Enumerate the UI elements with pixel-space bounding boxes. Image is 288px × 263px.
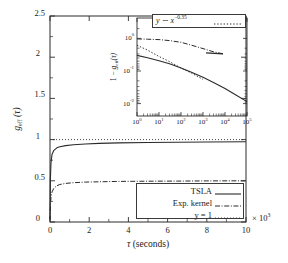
inset-legend-label-y: y — [156, 16, 160, 25]
inset-legend-sample-powerlaw — [214, 21, 242, 22]
inset-ytick-10em1-exp: -1 — [130, 65, 134, 70]
inset-xtick-10e1-exp: 1 — [161, 117, 163, 122]
inset-plot-canvas — [0, 0, 288, 263]
series-power-law-inset — [137, 45, 203, 79]
inset-yaxis-label-sub: eff — [114, 61, 119, 66]
inset-ytick-10em2: 10-2 — [123, 100, 134, 107]
series-tsla-inset — [137, 55, 247, 101]
inset-xtick-10e0: 100 — [132, 119, 141, 126]
inset-ytick-10em2-exp: -2 — [130, 98, 134, 103]
inset-xtick-10e3-base: 10 — [198, 118, 205, 126]
inset-ytick-10em2-base: 10 — [123, 99, 130, 107]
inset-ytick-10em1: 10-1 — [123, 68, 134, 75]
inset-xtick-10e0-exp: 0 — [139, 117, 141, 122]
inset-xtick-10e3: 103 — [198, 119, 207, 126]
inset-legend-label-powerlaw: y ∼ x−0.35 — [156, 17, 187, 25]
inset-legend-label-exp: −0.35 — [174, 14, 187, 20]
inset-legend[interactable]: y ∼ x−0.35 — [152, 14, 246, 28]
inset-xtick-10e4: 104 — [220, 119, 229, 126]
inset-yaxis-label: 1 − geff(τ) — [114, 39, 122, 67]
figure-root: 0 0.5 1 1.5 2 2.5 0 2 4 6 8 10 × 103 τ (… — [0, 0, 288, 263]
inset-ytick-10e0-base: 10 — [125, 34, 132, 42]
inset-xtick-10e2-exp: 2 — [183, 117, 185, 122]
inset-xtick-10e0-base: 10 — [132, 118, 139, 126]
inset-x-ticks — [137, 18, 247, 116]
inset-legend-label-tilde: ∼ — [162, 16, 169, 25]
inset-y-ticks — [137, 38, 247, 103]
inset-ytick-10e0-exp: 0 — [132, 33, 134, 38]
inset-ytick-10em1-base: 10 — [123, 67, 130, 75]
inset-xtick-10e3-exp: 3 — [205, 117, 207, 122]
inset-xtick-10e5: 105 — [242, 119, 251, 126]
inset-yaxis-label-pre: 1 − — [109, 69, 118, 81]
series-exp-kernel-inset — [137, 39, 223, 54]
inset-xtick-10e1-base: 10 — [154, 118, 161, 126]
inset-xtick-10e1: 101 — [154, 119, 163, 126]
inset-xtick-10e5-exp: 5 — [249, 117, 251, 122]
inset-ytick-10e0: 100 — [125, 35, 134, 42]
inset-xtick-10e2: 102 — [176, 119, 185, 126]
inset-xtick-10e4-base: 10 — [220, 118, 227, 126]
inset-axes-frame — [137, 18, 247, 116]
inset-yaxis-label-g: g — [109, 66, 118, 70]
inset-xtick-10e4-exp: 4 — [227, 117, 229, 122]
inset-xtick-10e5-base: 10 — [242, 118, 249, 126]
inset-xtick-10e2-base: 10 — [176, 118, 183, 126]
